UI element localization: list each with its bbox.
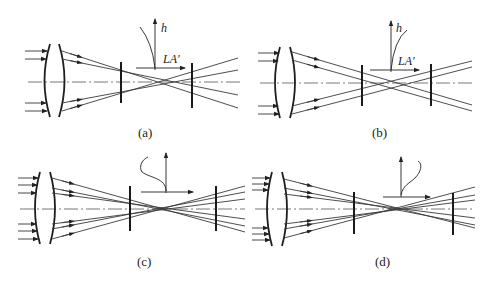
panel-caption: (a) — [138, 125, 152, 140]
biconvex-lens — [45, 44, 65, 117]
la-axis-label: LA' — [397, 54, 415, 68]
h-axis-label: h — [161, 21, 167, 35]
biconvex-lens — [35, 172, 55, 244]
la-axis-label: LA' — [162, 52, 180, 66]
aberration-curve — [140, 27, 155, 68]
panel-caption: (b) — [372, 125, 387, 140]
spherical-aberration-figure: h LA' (a) — [0, 0, 490, 285]
aberration-plot — [383, 157, 430, 197]
refracted-rays — [62, 51, 238, 111]
aberration-plot — [141, 153, 193, 193]
refracted-rays — [284, 179, 475, 238]
panel-caption: (c) — [137, 254, 151, 269]
figure-svg: h LA' (a) — [0, 0, 490, 285]
aberration-curve — [141, 157, 166, 191]
panel-a: h LA' (a) — [25, 19, 240, 140]
aberration-plot: h LA' — [370, 21, 419, 72]
panel-b: h LA' (b) — [258, 21, 474, 140]
panel-caption: (d) — [375, 254, 390, 269]
aberration-plot: h LA' — [136, 19, 185, 70]
panel-d: (d) — [252, 157, 475, 269]
biconvex-lens — [275, 47, 295, 118]
h-axis-label: h — [396, 21, 402, 35]
panel-c: (c) — [18, 153, 245, 269]
aberration-curve — [401, 161, 421, 195]
